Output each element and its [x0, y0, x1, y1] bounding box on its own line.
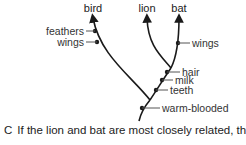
taxon-bat-label: bat — [171, 2, 186, 14]
lion-branch — [147, 18, 171, 68]
trait-teeth-label: teeth — [170, 84, 194, 96]
root-branch — [139, 100, 150, 121]
bird-branch — [93, 18, 150, 100]
option-text: If the lion and bat are most closely rel… — [17, 124, 246, 136]
trait-bird-wings-label: wings — [56, 36, 84, 48]
option-letter: C — [4, 124, 12, 136]
trait-warm-blooded-label: warm-blooded — [161, 102, 229, 114]
taxon-bird-label: bird — [84, 2, 102, 14]
answer-option-c: CIf the lion and bat are most closely re… — [4, 124, 246, 136]
taxon-lion-label: lion — [138, 2, 155, 14]
trait-bat-wings-label: wings — [191, 37, 219, 49]
